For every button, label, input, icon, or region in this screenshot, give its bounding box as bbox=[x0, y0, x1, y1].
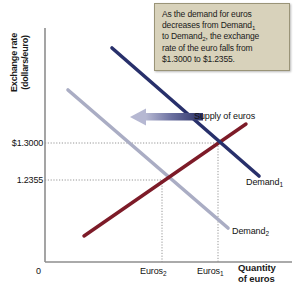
x-tick-euros1-base: Euros bbox=[197, 266, 220, 276]
callout-line-1: As the demand for euros bbox=[162, 9, 283, 20]
curve-label-demand-1-sub: 1 bbox=[279, 181, 283, 188]
curve-label-demand-2-sub: 2 bbox=[265, 230, 269, 237]
curve-label-demand-1: Demand1 bbox=[246, 177, 283, 187]
y-tick-label-2: 1.2355 bbox=[17, 175, 43, 185]
curve-label-demand-1-base: Demand bbox=[246, 177, 279, 187]
y-axis-title: Exchange rate (dollars/euro) bbox=[9, 8, 30, 118]
curve-label-demand-2: Demand2 bbox=[232, 226, 269, 236]
callout-line-4: rate of the euro falls from bbox=[162, 43, 283, 54]
curve-label-supply: Supply of euros bbox=[194, 111, 255, 121]
x-tick-euros2-sub: 2 bbox=[163, 270, 167, 277]
callout-line-2-sub: 1 bbox=[252, 24, 255, 31]
callout-line-3-sub: 2 bbox=[202, 35, 205, 42]
x-axis-title-line1: Quantity bbox=[238, 262, 276, 273]
callout-line-2: decreases from Demand1 bbox=[162, 20, 283, 31]
x-tick-label-euros2: Euros2 bbox=[140, 266, 167, 276]
x-tick-euros2-base: Euros bbox=[140, 266, 163, 276]
y-axis-title-line2: (dollars/euro) bbox=[19, 35, 29, 90]
x-axis-title: Quantity of euros bbox=[238, 262, 276, 284]
callout-line-2-text: decreases from Demand bbox=[162, 20, 252, 30]
curve-supply bbox=[84, 124, 246, 236]
exchange-rate-demand-shift-figure: Exchange rate (dollars/euro) $1.3000 1.2… bbox=[0, 0, 297, 288]
x-tick-label-euros1: Euros1 bbox=[197, 266, 224, 276]
origin-label: 0 bbox=[36, 266, 41, 276]
curve-label-demand-2-base: Demand bbox=[232, 226, 265, 236]
y-tick-label-1: $1.3000 bbox=[12, 138, 43, 148]
callout-line-3-text-a: to Demand bbox=[162, 31, 202, 41]
explanation-callout: As the demand for euros decreases from D… bbox=[154, 3, 290, 71]
shift-arrow-icon bbox=[130, 109, 203, 126]
callout-line-5: $1.3000 to $1.2355. bbox=[162, 54, 283, 65]
callout-line-3: to Demand2, the exchange bbox=[162, 31, 283, 42]
callout-line-3-text-b: , the exchange bbox=[205, 31, 259, 41]
x-axis-title-line2: of euros bbox=[238, 273, 275, 284]
x-tick-euros1-sub: 1 bbox=[220, 270, 224, 277]
y-axis-title-line1: Exchange rate bbox=[9, 33, 19, 92]
